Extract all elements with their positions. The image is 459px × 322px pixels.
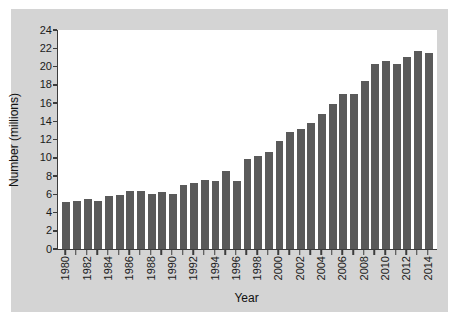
x-axis-label-slot <box>93 256 101 290</box>
x-axis-label-group: 1980198219841986198819901992199419961998… <box>57 256 436 290</box>
x-axis-tick-mark <box>182 250 184 255</box>
x-axis-tick-mark <box>65 250 67 255</box>
x-axis-tick-mark <box>427 250 429 255</box>
x-axis-tick-mark <box>150 250 152 255</box>
x-axis-label-slot <box>179 256 187 290</box>
x-axis-label-slot <box>392 256 400 290</box>
bar <box>116 195 124 249</box>
x-axis-tick-mark <box>416 250 418 255</box>
x-axis-tick-label: 2014 <box>422 256 433 280</box>
x-axis-label-slot <box>243 256 251 290</box>
x-axis-tick-label: 1994 <box>209 256 220 280</box>
x-axis-label-slot <box>306 256 314 290</box>
x-axis-tick-label: 2006 <box>337 256 348 280</box>
x-axis-label-slot <box>370 256 378 290</box>
bar <box>350 94 358 249</box>
bar <box>180 185 188 249</box>
x-axis-tick-mark <box>203 250 205 255</box>
x-axis-tick-label: 1990 <box>166 256 177 280</box>
x-axis-label-slot: 1998 <box>253 256 261 290</box>
x-axis-tick-mark <box>267 250 269 255</box>
bar <box>265 152 273 249</box>
bar <box>339 94 347 249</box>
x-axis-tick-mark <box>320 250 322 255</box>
x-axis-label-slot <box>285 256 293 290</box>
x-axis-tick-mark <box>374 250 376 255</box>
bar <box>382 61 390 249</box>
x-axis-tick-mark <box>310 250 312 255</box>
x-axis-label-slot: 1986 <box>125 256 133 290</box>
x-axis-tick-mark <box>406 250 408 255</box>
bar <box>425 53 433 249</box>
bar <box>414 51 422 249</box>
x-axis-label-slot: 2014 <box>424 256 432 290</box>
bar <box>84 199 92 249</box>
x-axis-tick-label: 1984 <box>102 256 113 280</box>
x-axis-label-slot: 1988 <box>147 256 155 290</box>
bar <box>126 191 134 249</box>
x-axis-label-slot: 1990 <box>168 256 176 290</box>
x-axis-tick-label: 1986 <box>124 256 135 280</box>
bar <box>403 57 411 249</box>
x-axis-tick-mark <box>288 250 290 255</box>
bar <box>244 159 252 249</box>
x-axis-label-slot: 1984 <box>104 256 112 290</box>
x-axis-label-slot <box>115 256 123 290</box>
x-axis-label-slot: 2006 <box>338 256 346 290</box>
x-axis-tick-mark <box>342 250 344 255</box>
x-axis-tick-label: 2002 <box>294 256 305 280</box>
x-axis-tick-mark <box>256 250 258 255</box>
bar <box>254 156 262 249</box>
x-axis-label-slot: 1996 <box>232 256 240 290</box>
x-axis-label-slot: 1994 <box>211 256 219 290</box>
bar <box>105 196 113 249</box>
bar <box>361 81 369 249</box>
x-axis-tick-mark <box>395 250 397 255</box>
x-axis-tick-mark <box>352 250 354 255</box>
x-axis-label-slot: 2008 <box>360 256 368 290</box>
x-axis-tick-mark <box>192 250 194 255</box>
x-axis-tick-label: 2012 <box>401 256 412 280</box>
bar <box>137 191 145 249</box>
x-axis-label-slot: 2004 <box>317 256 325 290</box>
x-axis-tick-mark <box>363 250 365 255</box>
x-axis-tick-mark <box>160 250 162 255</box>
x-axis-label-slot <box>413 256 421 290</box>
bar <box>318 114 326 249</box>
x-axis-tick-mark <box>224 250 226 255</box>
x-axis-label-slot: 2002 <box>296 256 304 290</box>
x-axis-label-slot: 2010 <box>381 256 389 290</box>
x-axis-tick-label: 1998 <box>252 256 263 280</box>
x-axis-label-slot <box>200 256 208 290</box>
bar <box>169 194 177 249</box>
bar-series <box>58 30 437 249</box>
x-axis-label-slot <box>221 256 229 290</box>
x-axis-tick-mark <box>86 250 88 255</box>
x-axis-tick-label: 2010 <box>380 256 391 280</box>
y-axis-tick-group: 024681012141618202224 <box>0 0 57 220</box>
x-axis-tick-mark <box>139 250 141 255</box>
x-axis-tick-mark <box>235 250 237 255</box>
bar <box>222 171 230 249</box>
x-axis-tick-mark <box>97 250 99 255</box>
x-axis-tick-mark <box>384 250 386 255</box>
bar-chart-figure: Number (millions) 024681012141618202224 … <box>0 0 459 322</box>
x-axis-label-slot <box>328 256 336 290</box>
x-axis-tick-label: 2000 <box>273 256 284 280</box>
bar <box>190 183 198 249</box>
x-axis-tick-label: 2004 <box>316 256 327 280</box>
x-axis-tick-mark <box>214 250 216 255</box>
x-axis-tick-label: 1988 <box>145 256 156 280</box>
plot-area <box>57 30 437 250</box>
bar <box>371 64 379 249</box>
bar <box>233 181 241 249</box>
x-axis-tick-mark <box>118 250 120 255</box>
x-axis-label-slot: 2012 <box>402 256 410 290</box>
x-axis-tick-label: 1992 <box>188 256 199 280</box>
bar <box>148 194 156 249</box>
bar <box>307 123 315 249</box>
x-axis-title: Year <box>57 292 436 304</box>
x-axis-label-slot: 1980 <box>61 256 69 290</box>
bar <box>276 141 284 249</box>
x-axis-label-slot <box>157 256 165 290</box>
